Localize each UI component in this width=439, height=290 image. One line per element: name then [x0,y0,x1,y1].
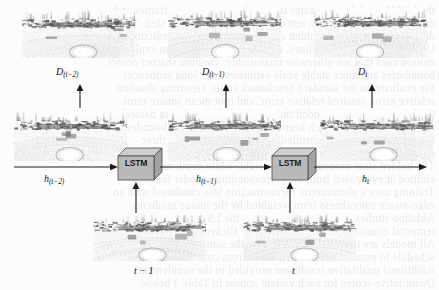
label-frame-t-minus-1: t − 1 [134,265,154,276]
bleed-line: emitted at every step from the correspon… [4,173,435,184]
label-depth-t: Dt [358,66,367,77]
feature-map-t-minus-1 [168,111,281,161]
depth-map-t [314,8,427,58]
input-frame-t-minus-1 [93,213,206,261]
input-frame-t [243,213,356,261]
figure-canvas: the LSTM module aggregates temporal cont… [0,0,439,290]
label-depth-t-minus-1: D(t−1) [202,66,224,77]
lstm-block-1[interactable]: LSTM [118,148,162,180]
bleed-line: relative error, squared relative error, … [4,95,435,106]
arrow-up-t [366,84,378,108]
bleed-line: All models are trained end to end with t… [4,238,435,249]
label-frame-t: t [292,265,295,276]
arrow-hidden-t-minus-1 [160,161,272,173]
bleed-line: Quantitative scores for each variant app… [4,277,435,288]
label-depth-t-minus-2: D(t−2) [56,66,78,77]
feature-map-t [320,111,433,161]
depth-map-t-minus-2 [22,10,135,58]
bleed-line: temporal consistency, producing visible … [4,225,435,236]
label-hidden-t: ht [362,173,369,184]
arrow-hidden-t [314,161,427,173]
arrow-input-t [284,182,296,214]
arrow-up-t-minus-2 [74,84,86,108]
arrow-input-t-minus-1 [130,182,142,214]
lstm-block-2[interactable]: LSTM [272,148,316,180]
arrow-hidden-t-minus-2 [14,161,118,173]
bleed-line: Additional qualitative results are provi… [4,264,435,275]
bleed-line: edge-aware smoothness term weighted by t… [4,199,435,210]
label-hidden-t-minus-2: h(t−2) [44,173,64,184]
bleed-line: The hidden state propagates left to righ… [4,160,435,171]
bleed-line: Ablation studies confirm that removing t… [4,212,435,223]
label-hidden-t-minus-1: h(t−1) [196,173,216,184]
bleed-line: Training uses a photometric reconstructi… [4,186,435,197]
bleed-line: We evaluate on the standard benchmark sp… [4,82,435,93]
bleed-line: schedule to ensure a fair comparison acr… [4,251,435,262]
feature-map-t-minus-2 [14,111,127,161]
depth-map-t-minus-1 [168,8,281,58]
arrow-up-t-minus-1 [220,84,232,108]
